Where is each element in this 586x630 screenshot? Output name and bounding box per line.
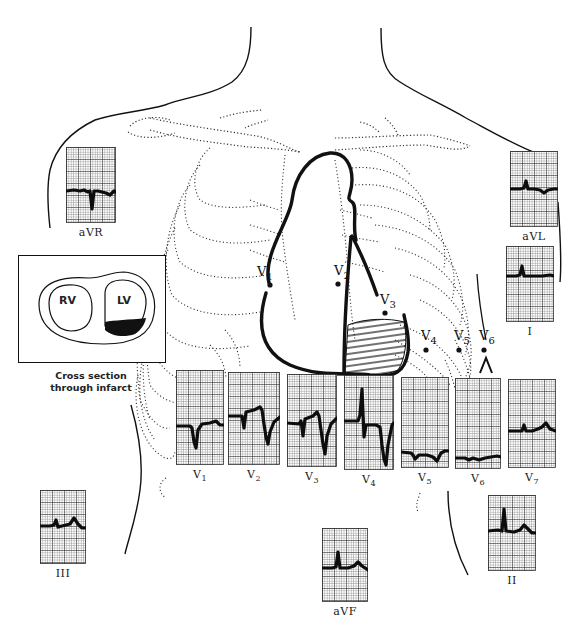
infarct-region bbox=[345, 319, 406, 374]
electrode-label-v3: V3 bbox=[380, 292, 396, 310]
ecg-grid bbox=[66, 147, 116, 223]
lead-label-v3: V3 bbox=[287, 470, 337, 485]
electrode-label-v6: V6 bbox=[479, 328, 495, 346]
lead-label-v4: V4 bbox=[344, 473, 394, 488]
inset-caption: Cross section through infarct bbox=[18, 370, 164, 394]
ecg-grid bbox=[344, 375, 394, 470]
infarct-wall bbox=[105, 318, 146, 336]
ecg-grid bbox=[287, 374, 337, 467]
lead-label-avl: aVL bbox=[510, 230, 558, 243]
clavicles bbox=[128, 110, 470, 152]
ecg-grid bbox=[455, 378, 501, 469]
ecg-strip-ii bbox=[488, 495, 536, 571]
rv-label: RV bbox=[59, 294, 76, 307]
ecg-strip-v5 bbox=[401, 377, 449, 468]
ecg-strip-v6 bbox=[455, 378, 501, 469]
ecg-grid bbox=[401, 377, 449, 468]
lead-label-v7: V7 bbox=[508, 471, 556, 486]
lead-label-v1: V1 bbox=[176, 468, 224, 483]
ecg-strip-v3 bbox=[287, 374, 337, 467]
ecg-strip-avf bbox=[322, 528, 368, 602]
lead-label-iii: III bbox=[40, 567, 86, 580]
lead-label-v2: V2 bbox=[228, 468, 280, 483]
lead-label-i: I bbox=[506, 325, 554, 338]
ecg-grid bbox=[176, 370, 224, 465]
ecg-strip-avr bbox=[66, 147, 116, 223]
cross-section-inset: RV LV bbox=[18, 255, 166, 363]
electrode-label-v2: V2 bbox=[334, 263, 350, 281]
lead-label-avr: aVR bbox=[66, 226, 116, 239]
electrode-label-v4: V4 bbox=[421, 328, 437, 346]
ecg-grid bbox=[488, 495, 536, 571]
heart-cross-section-icon bbox=[19, 256, 165, 362]
lead-label-avf: aVF bbox=[322, 605, 368, 618]
ecg-strip-v4 bbox=[344, 375, 394, 470]
electrode-label-v1: V1 bbox=[257, 264, 273, 282]
ecg-grid bbox=[508, 379, 556, 468]
lead-label-v6: V6 bbox=[455, 472, 501, 487]
ecg-torso-figure: V1 V2 V3 V4 V5 V6 RV LV Cross section th… bbox=[0, 0, 586, 630]
lv-label: LV bbox=[117, 294, 131, 307]
ecg-strip-v1 bbox=[176, 370, 224, 465]
ecg-grid bbox=[322, 528, 368, 602]
ecg-grid bbox=[510, 151, 558, 227]
ecg-strip-v2 bbox=[228, 372, 280, 465]
electrode-label-v5: V5 bbox=[454, 328, 470, 346]
lead-label-ii: II bbox=[488, 574, 536, 587]
ecg-grid bbox=[506, 246, 554, 322]
v6-lead-clip bbox=[480, 358, 492, 373]
ecg-strip-iii bbox=[40, 490, 86, 564]
ecg-grid bbox=[40, 490, 86, 564]
lead-label-v5: V5 bbox=[401, 471, 449, 486]
ecg-strip-v7 bbox=[508, 379, 556, 468]
ecg-grid bbox=[228, 372, 280, 465]
ecg-strip-avl bbox=[510, 151, 558, 227]
ecg-strip-i bbox=[506, 246, 554, 322]
